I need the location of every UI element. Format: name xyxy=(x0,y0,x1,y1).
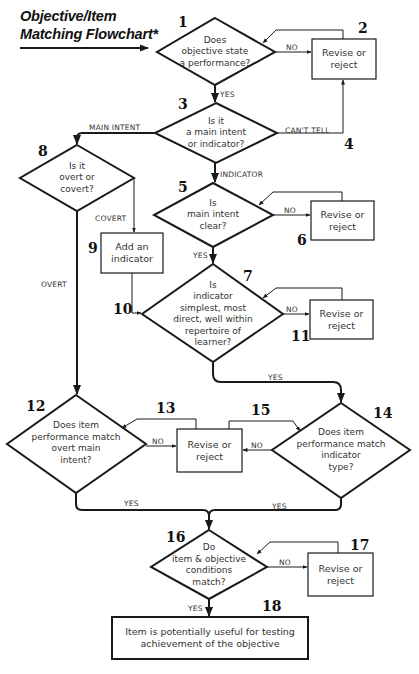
title-line-1: Objective/Item xyxy=(20,7,158,25)
edge-label-3-main-intent: MAIN INTENT xyxy=(89,123,140,132)
decision-14-text: Does item performance match indicator ty… xyxy=(281,417,401,483)
decision-12-text: Does item performance match overt main i… xyxy=(16,410,136,476)
process-6-text: Revise or reject xyxy=(311,201,374,240)
step-number-2: 2 xyxy=(358,20,368,36)
edge-label-16-no: NO xyxy=(279,558,291,567)
step-number-13: 13 xyxy=(156,400,175,416)
step-number-18: 18 xyxy=(262,598,281,614)
decision-8-text: Is it overt or covert? xyxy=(37,152,117,204)
edge-label-5-yes: YES xyxy=(193,251,208,260)
edge-label-16-yes: YES xyxy=(188,604,203,613)
edge-label-14-yes: YES xyxy=(272,502,287,511)
decision-16-text: Do item & objective conditions match? xyxy=(159,536,259,594)
step-number-6: 6 xyxy=(297,232,307,248)
step-number-4: 4 xyxy=(344,136,354,152)
process-2-text: Revise or reject xyxy=(312,39,376,79)
decision-1-text: Does objective state a performance? xyxy=(165,26,265,78)
edge-label-1-no: NO xyxy=(286,43,298,52)
edge-label-12-yes: YES xyxy=(124,499,139,508)
edge-label-7-yes: YES xyxy=(268,373,283,382)
edge-label-3-indicator: INDICATOR xyxy=(220,170,263,179)
step-number-11: 11 xyxy=(291,328,310,344)
process-13-text: Revise or reject xyxy=(177,429,242,472)
process-11-text: Revise or reject xyxy=(310,300,373,339)
step-number-10: 10 xyxy=(113,301,132,317)
title-line-2: Matching Flowchart* xyxy=(20,25,158,43)
flowchart-title: Objective/Item Matching Flowchart* xyxy=(20,7,158,43)
decision-7-text: Is indicator simplest, most direct, well… xyxy=(153,270,273,358)
process-9-text: Add an indicator xyxy=(101,233,163,273)
decision-3-text: Is it a main intent or indicator? xyxy=(166,108,266,158)
edge-label-14-no: NO xyxy=(251,441,263,450)
terminal-18-text: Item is potentially useful for testing a… xyxy=(112,617,308,659)
step-number-17: 17 xyxy=(350,537,369,553)
process-17-text: Revise or reject xyxy=(308,553,373,596)
step-number-9: 9 xyxy=(88,240,98,256)
edge-label-5-no: NO xyxy=(284,206,296,215)
step-number-15: 15 xyxy=(251,402,270,418)
edge-label-3-cant-tell: CAN'T TELL xyxy=(285,126,330,135)
edge-label-7-no: NO xyxy=(286,305,298,314)
edge-label-1-yes: YES xyxy=(220,90,235,99)
edge-label-8-covert: COVERT xyxy=(95,214,126,223)
edge-label-12-no: NO xyxy=(152,437,164,446)
decision-5-text: Is main intent clear? xyxy=(163,190,263,240)
edge-label-8-overt: OVERT xyxy=(41,280,67,289)
